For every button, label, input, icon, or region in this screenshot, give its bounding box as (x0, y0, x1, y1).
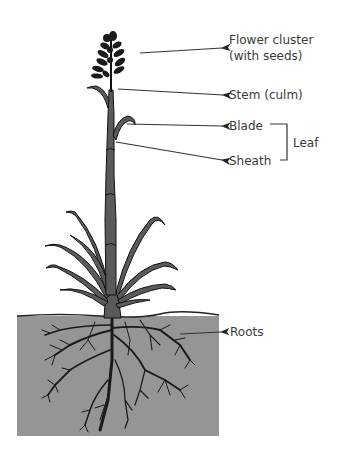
leaf-bracket (270, 124, 287, 160)
pointer-lines (116, 48, 223, 334)
upper-leaf (87, 86, 109, 108)
blade (113, 116, 135, 140)
pointer-stem (118, 89, 223, 95)
soil (17, 312, 219, 436)
label-roots: Roots (230, 325, 263, 340)
flower-cluster (91, 31, 127, 92)
pointer-sheath (116, 142, 222, 160)
label-stem: Stem (culm) (229, 88, 303, 103)
label-blade: Blade (229, 119, 263, 134)
stem (105, 90, 116, 295)
pointer-flower (140, 48, 222, 53)
pointer-blade (127, 124, 222, 126)
grass-plant-diagram (0, 0, 339, 463)
label-sheath: Sheath (229, 154, 271, 169)
label-flower-cluster-sub: (with seeds) (229, 49, 303, 64)
label-leaf: Leaf (293, 136, 318, 151)
label-flower-cluster: Flower cluster (229, 33, 313, 48)
